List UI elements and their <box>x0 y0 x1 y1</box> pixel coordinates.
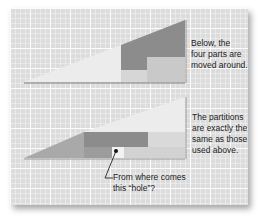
bottom-pale-piece <box>148 132 185 147</box>
bottom-mid-piece <box>84 147 112 158</box>
bottom-dark-piece <box>84 132 148 147</box>
bottom-light-strip <box>124 147 185 158</box>
top-light-strip <box>121 70 147 82</box>
bottom-left-triangle <box>24 132 84 158</box>
hole-callout: From where comes this “hole”? <box>113 172 186 194</box>
top-pale-piece <box>147 57 185 82</box>
bottom-large-triangle <box>84 97 185 132</box>
bottom-figure <box>24 97 186 178</box>
top-figure <box>24 20 186 83</box>
top-caption: Below, the four parts are moved around. <box>191 38 248 71</box>
top-large-triangle <box>24 45 121 82</box>
bottom-caption: The partitions are exactly the same as t… <box>192 112 247 156</box>
